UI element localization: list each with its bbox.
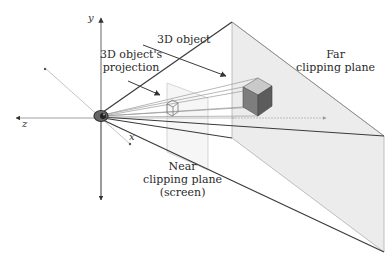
- far-plane-label: Far clipping plane: [296, 48, 375, 74]
- view-frustum-diagram: y z x 3D object 3D object's projection F…: [0, 0, 391, 264]
- z-axis-label: z: [22, 118, 27, 129]
- x-axis-label: x: [129, 131, 135, 142]
- object-label: 3D object: [157, 33, 210, 46]
- y-axis-label: y: [88, 12, 94, 23]
- near-clipping-plane: [167, 83, 208, 170]
- projection-label: 3D object's projection: [100, 48, 162, 74]
- near-plane-label: Near clipping plane (screen): [143, 160, 222, 199]
- eye-icon: [94, 111, 108, 122]
